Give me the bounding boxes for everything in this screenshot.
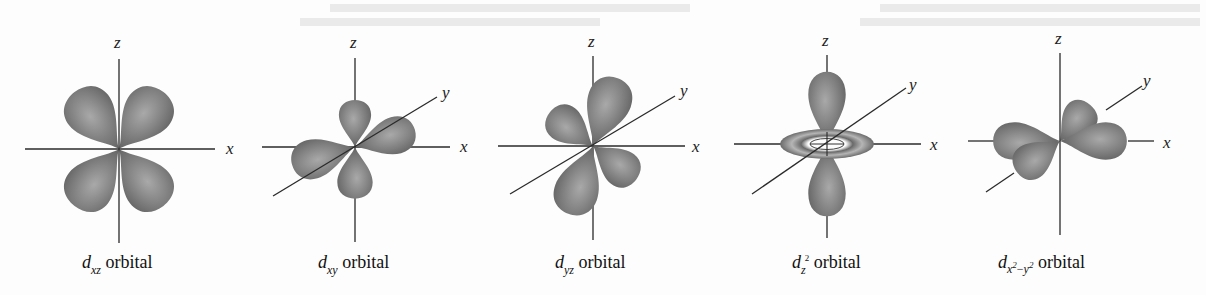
x-axis-label: x [1162, 133, 1171, 152]
x-axis-label: x [225, 139, 234, 158]
y-axis-pos [1106, 86, 1142, 110]
x-axis-label: x [929, 135, 938, 154]
y-axis-label: y [678, 81, 688, 100]
z-axis-label: z [113, 33, 121, 52]
z-axis-label: z [821, 31, 829, 50]
dyz-orbital-diagram: z x y [498, 32, 700, 240]
x-axis-label: x [459, 137, 468, 156]
y-axis-label: y [1141, 71, 1151, 90]
dxy-orbital-diagram: z x y [262, 33, 468, 242]
dxz-orbital-diagram: z x [25, 33, 234, 243]
y-axis-label: y [907, 75, 917, 94]
dx2-y2-caption: dx2−y2 orbital [998, 252, 1085, 277]
dz2-orbital-diagram: z x y [734, 31, 938, 238]
y-axis-neg [986, 173, 1014, 192]
dxz-caption: dxz orbital [82, 252, 153, 277]
z-axis-label: z [1054, 29, 1062, 48]
dyz-caption: dyz orbital [555, 252, 626, 277]
x-axis-label: x [691, 137, 700, 156]
z-axis-label: z [349, 33, 357, 52]
dx2-y2-orbital-diagram: z x y [968, 29, 1171, 235]
orbital-diagram: z x z x y z x y [0, 0, 1206, 295]
y-axis-label: y [440, 83, 450, 102]
dxy-caption: dxy orbital [318, 252, 389, 277]
dz2-caption: dz2 orbital [792, 252, 861, 277]
z-axis-label: z [587, 32, 595, 51]
